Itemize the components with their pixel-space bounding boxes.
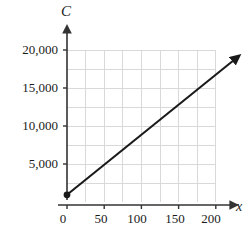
x-tick-label-50: 50 [84,212,118,225]
y-tick-label-15000: 15,000 [2,81,58,94]
chart-figure: C x 20,000 15,000 10,000 5,000 0 50 100 … [0,0,250,227]
y-tick-label-10000: 10,000 [2,119,58,132]
y-tick-label-20000: 20,000 [2,43,58,56]
x-tick-label-200: 200 [194,212,228,225]
data-line-series-c [67,60,234,195]
y-tick-label-5000: 5,000 [2,157,58,170]
x-tick-label-0: 0 [46,212,80,225]
data-point-start-marker [64,191,71,198]
x-axis-title: x [236,200,242,214]
grid-lines [67,50,216,202]
x-tick-label-150: 150 [158,212,192,225]
y-axis-title: C [61,4,71,19]
plot-canvas [0,0,250,227]
x-tick-label-100: 100 [120,212,154,225]
